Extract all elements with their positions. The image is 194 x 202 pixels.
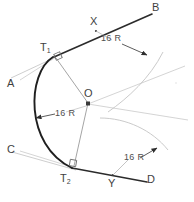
geometry-svg	[0, 0, 194, 202]
center-point-label-o: O	[84, 88, 93, 99]
point-label-c: C	[7, 144, 15, 155]
construction-arc-upper-right	[108, 52, 163, 112]
dim-leader-top-right	[122, 44, 147, 55]
tangent-point-label-t2: T2	[60, 173, 71, 184]
point-label-d: D	[147, 174, 155, 185]
right-angle-marker-t2	[69, 159, 76, 166]
technical-drawing-canvas: A B C D X Y O T1 T2 16 R 16 R 16 R	[0, 0, 194, 202]
tangent-tick-marks	[95, 30, 114, 176]
construction-lines	[11, 52, 188, 170]
construction-line-c-extension	[12, 152, 76, 170]
radius-dimension-bottom-right: 16 R	[124, 153, 144, 162]
construction-arc-lower-right	[100, 118, 168, 150]
tangent-point-label-t1: T1	[40, 42, 51, 53]
t1-base: T	[40, 41, 47, 53]
point-label-b: B	[152, 2, 159, 13]
dim-connector-bottom	[113, 160, 128, 175]
center-point-square	[86, 102, 90, 106]
radius-dimension-middle-left: 16 R	[55, 109, 75, 118]
radius-line-o-t2	[74, 103, 88, 166]
construction-ray-upper-right	[88, 66, 185, 104]
dim-leader-middle	[36, 114, 55, 118]
radius-dimension-top-right: 16 R	[101, 34, 121, 43]
t2-base: T	[60, 172, 67, 184]
point-label-y: Y	[108, 178, 115, 189]
stray-mark	[175, 82, 176, 83]
center-point-marker	[86, 102, 90, 106]
point-label-x: X	[90, 16, 97, 27]
t1-subscript: 1	[47, 47, 51, 54]
point-label-a: A	[7, 78, 14, 89]
t2-subscript: 2	[67, 178, 71, 185]
